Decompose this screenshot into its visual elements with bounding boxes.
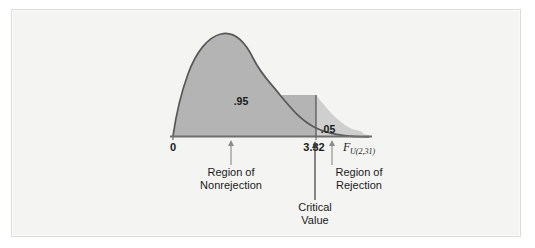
axis-variable-subscript: U(2,31) xyxy=(350,147,375,156)
caption-critical-line1: Critical xyxy=(298,201,332,213)
caption-rejection-line1: Region of xyxy=(335,166,383,178)
nonrejection-region-fill xyxy=(173,34,316,136)
figure-panel: .95 .05 0 3.32 F U(2,31) Region of Nonre… xyxy=(11,9,521,237)
nonrejection-pointer-arrowhead xyxy=(228,140,234,146)
axis-origin-label: 0 xyxy=(170,141,176,153)
chart-svg: .95 .05 0 3.32 F U(2,31) Region of Nonre… xyxy=(12,10,522,238)
rejection-area-label: .05 xyxy=(321,123,336,135)
caption-rejection-line2: Rejection xyxy=(336,179,382,191)
rejection-pointer-arrowhead xyxy=(329,140,335,146)
f-distribution-chart: .95 .05 0 3.32 F U(2,31) Region of Nonre… xyxy=(12,10,522,238)
caption-critical-line2: Value xyxy=(301,214,328,226)
caption-nonrejection-line2: Nonrejection xyxy=(200,179,262,191)
caption-nonrejection-line1: Region of xyxy=(207,166,255,178)
nonrejection-area-label: .95 xyxy=(234,95,249,107)
